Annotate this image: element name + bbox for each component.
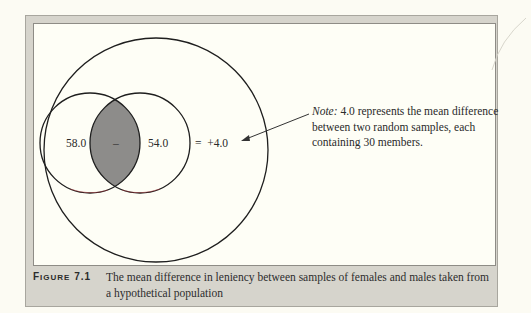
minus-sign: – xyxy=(112,137,119,149)
left-sample-value: 58.0 xyxy=(66,137,86,149)
arrow-head-icon xyxy=(241,135,250,141)
note-label: Note: xyxy=(312,105,338,117)
figure-label-rest: IGURE xyxy=(40,273,70,282)
note-text: Note: 4.0 represents the mean difference… xyxy=(312,104,512,151)
right-sample-value: 54.0 xyxy=(148,137,168,149)
figure-caption: The mean difference in leniency between … xyxy=(106,269,496,301)
population-circle xyxy=(44,38,268,262)
venn-diagram: 58.0 – 54.0 = +4.0 xyxy=(0,0,531,313)
figure-number: 7.1 xyxy=(74,271,91,282)
note-arrow xyxy=(246,114,309,139)
result-value: = +4.0 xyxy=(195,137,228,149)
figure-label: FIGURE 7.1 xyxy=(33,271,91,282)
note-body: 4.0 represents the mean difference betwe… xyxy=(312,105,498,148)
